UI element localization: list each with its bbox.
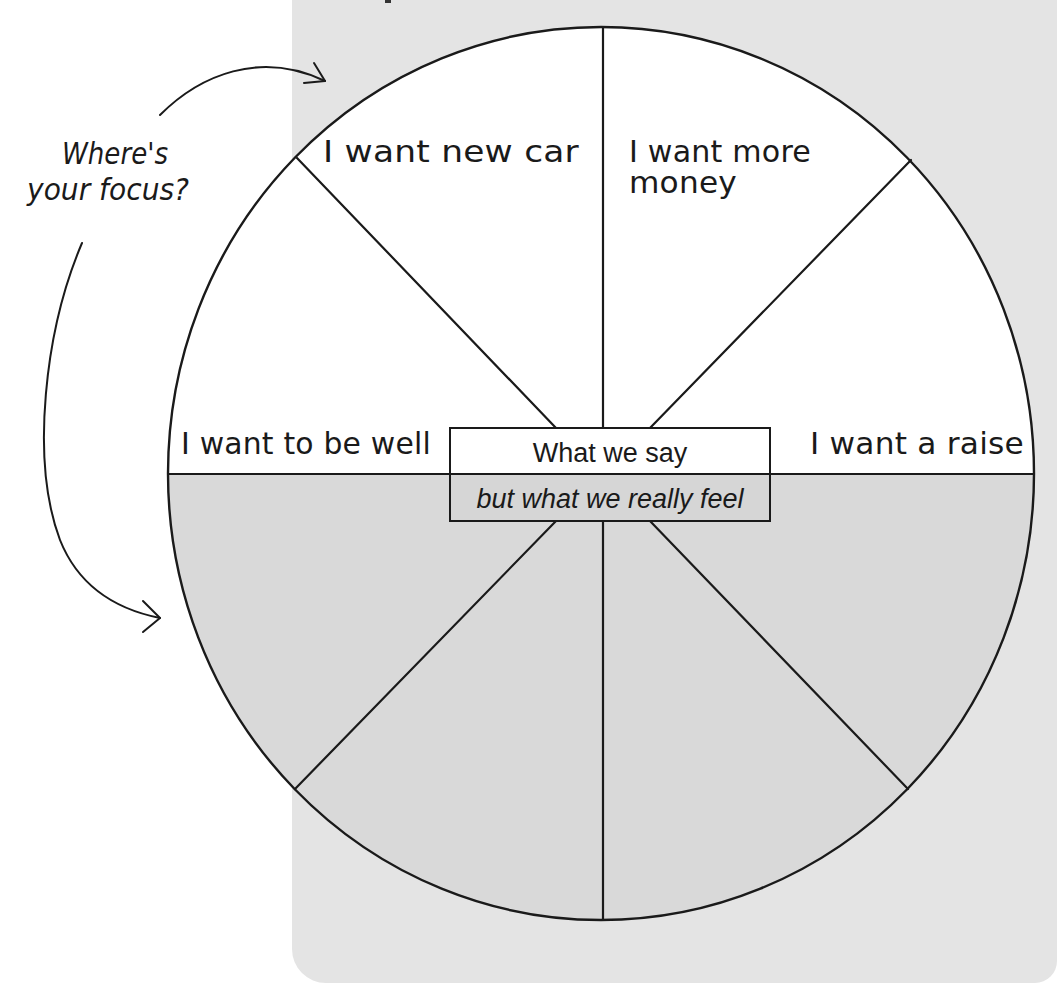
- label-more-money-line2: money: [629, 165, 737, 200]
- label-raise: I want a raise: [810, 426, 1024, 461]
- arrow-to-top: [160, 63, 325, 115]
- label-more-money-line1: I want more: [629, 134, 811, 169]
- arrow-curve-bottom: [44, 243, 160, 618]
- label-be-well: I want to be well: [181, 426, 431, 461]
- label-new-car: I want new car: [323, 134, 580, 169]
- prompt-line2: your focus?: [26, 171, 189, 207]
- prompt-line1: Where's: [62, 135, 168, 171]
- center-box-top-text: What we say: [533, 438, 688, 468]
- arrow-curve-top: [160, 67, 325, 115]
- cropped-glyph-fragment: [385, 0, 391, 3]
- focus-wheel-diagram: What we say but what we really feel I wa…: [0, 0, 1064, 996]
- arrow-to-bottom: [44, 243, 160, 632]
- center-box-bottom-text: but what we really feel: [476, 484, 744, 514]
